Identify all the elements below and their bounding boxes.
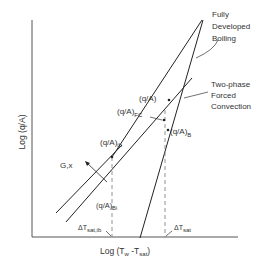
tpfc-label-3: Convection: [211, 102, 251, 111]
point-q-a-fc: [163, 119, 166, 122]
x-axis-label: Log (Tw -Tsat): [100, 246, 150, 257]
dt-sat-leader: [166, 231, 172, 236]
boiling-curve-diagram: Fully Developed Boiling Two-phase Forced…: [0, 0, 279, 261]
q-a-bi-label: (q/A)Bi: [96, 201, 117, 211]
fdb-label-3: Boiling: [212, 34, 236, 43]
fdb-label-1: Fully: [212, 10, 229, 19]
point-q-a: [168, 99, 171, 102]
y-axis-label: Log (q/A): [17, 114, 27, 149]
point-q-a-ib: [111, 156, 114, 159]
single-phase-line-lower: [66, 78, 192, 222]
q-a-label: (q/A): [139, 94, 157, 103]
two-phase-leader: [184, 92, 208, 98]
tpfc-label-1: Two-phase: [211, 80, 251, 89]
q-a-fc-label: (q/A)FC: [117, 107, 143, 118]
q-a-ib-label: (q/A)ib: [100, 138, 123, 148]
dt-sat-label: ΔTsat: [174, 224, 191, 233]
q-a-b-label: (q/A)B: [170, 127, 191, 138]
dt-sat-ib-label: ΔTsat,ib: [78, 224, 102, 233]
tpfc-label-2: Forced: [211, 91, 236, 100]
fdb-label-2: Developed: [212, 22, 250, 31]
dt-sat-ib-leader: [106, 231, 111, 236]
g-x-label: G,x: [60, 161, 72, 170]
point-q-a-b: [167, 129, 170, 132]
